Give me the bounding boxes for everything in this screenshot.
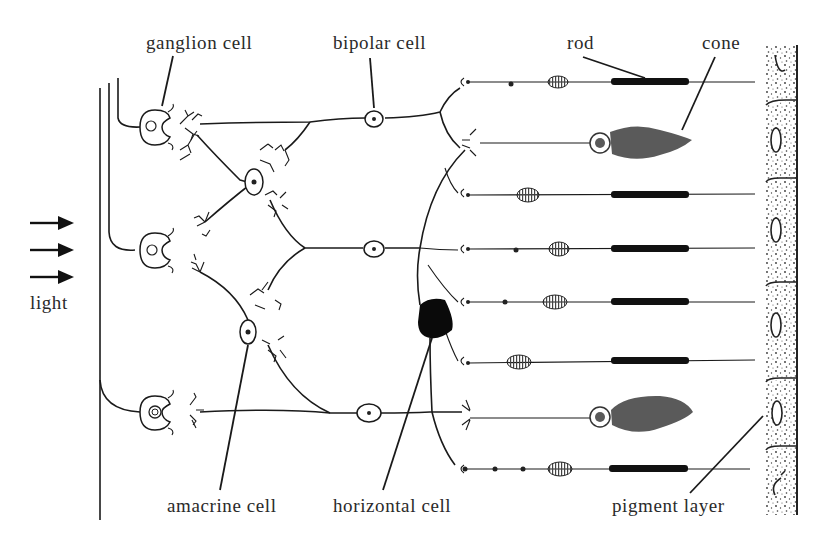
cone-cell: [462, 126, 692, 158]
label-light: light: [30, 292, 68, 313]
rod-cell: [461, 295, 755, 309]
rod-cell: [461, 355, 755, 369]
ganglion-cell: [140, 390, 173, 435]
nerve-fibers: [100, 78, 140, 520]
cone-cell: [462, 396, 693, 432]
leader-lines: [162, 56, 763, 493]
label-amacrine-cell: amacrine cell: [167, 495, 277, 516]
label-horizontal-cell: horizontal cell: [333, 495, 451, 516]
rod-cell: [461, 242, 755, 256]
ganglion-cell: [140, 228, 173, 273]
label-bipolar-cell: bipolar cell: [333, 32, 426, 53]
pigment-layer: [765, 45, 797, 515]
retina-diagram: ganglion cell bipolar cell rod cone ligh…: [0, 0, 822, 543]
photoreceptors: [461, 76, 755, 476]
rod-cell: [461, 188, 755, 202]
amacrine-cells: [240, 169, 263, 344]
rod-cell: [461, 462, 750, 476]
label-rod: rod: [567, 32, 594, 53]
horizontal-cell: [418, 299, 453, 339]
label-pigment-layer: pigment layer: [612, 495, 725, 516]
label-ganglion-cell: ganglion cell: [146, 32, 252, 53]
neural-connections: [197, 88, 465, 465]
arrow-icon: [30, 216, 74, 230]
bipolar-cells: [357, 111, 384, 422]
ganglion-cell: [140, 104, 173, 150]
rod-cell: [461, 76, 755, 88]
dendrites: [180, 110, 289, 428]
ganglion-cells: [140, 104, 173, 435]
arrow-icon: [30, 243, 74, 257]
label-cone: cone: [702, 32, 740, 53]
light-arrows: [30, 216, 74, 284]
arrow-icon: [30, 270, 74, 284]
